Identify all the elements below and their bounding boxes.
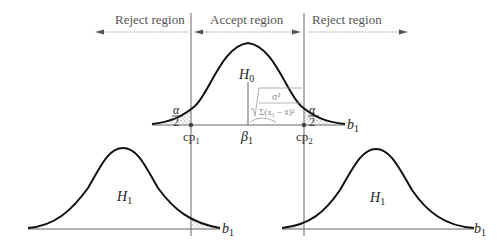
- left-reject-label: Reject region: [115, 12, 185, 27]
- accept-arrow: [194, 30, 301, 35]
- right-reject-arrowhead: [399, 30, 408, 35]
- h1-right-curve: [282, 149, 474, 228]
- right-reject-label: Reject region: [312, 12, 382, 27]
- std-error-formula: σ² Σ(x1 − x̄)²: [251, 88, 302, 118]
- svg-text:2: 2: [309, 115, 315, 129]
- bottom-right-plot: H1 b1: [282, 149, 486, 238]
- bottom-left-b1-label: b1: [222, 221, 234, 238]
- h1-left-label: H1: [116, 189, 132, 206]
- svg-text:Σ(x1 − x̄)²: Σ(x1 − x̄)²: [259, 107, 295, 118]
- top-b1-label: b1: [347, 117, 359, 134]
- cp1-point: [189, 123, 193, 127]
- beta1-label: β1: [240, 129, 253, 146]
- svg-text:2: 2: [173, 115, 179, 129]
- cp1-label: cp1: [183, 129, 200, 146]
- bottom-right-b1-label: b1: [474, 221, 486, 238]
- accept-label: Accept region: [210, 12, 284, 27]
- sd-arc: [250, 118, 276, 122]
- top-plot: H0 σ² Σ(x1 − x̄)² α 2 α 2 b1 cp1 β1 cp2: [152, 43, 359, 146]
- svg-text:σ²: σ²: [272, 91, 280, 102]
- h1-right-label: H1: [369, 190, 385, 207]
- cp2-point: [302, 123, 306, 127]
- hypothesis-test-diagram: Reject region Accept region Reject regio…: [0, 0, 504, 251]
- left-reject-arrow: [95, 30, 188, 35]
- cp2-label: cp2: [296, 129, 313, 146]
- h0-label: H0: [238, 67, 254, 84]
- bottom-left-plot: H1 b1: [28, 148, 234, 238]
